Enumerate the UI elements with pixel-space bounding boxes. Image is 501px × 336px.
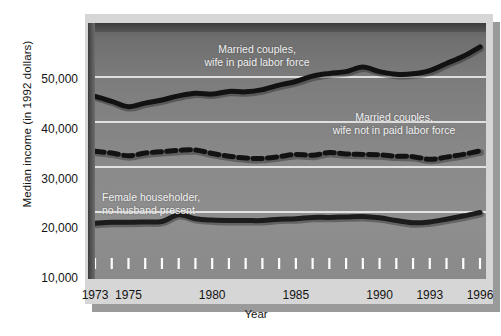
annot-female-householder: Female householder, no husband present	[102, 191, 262, 216]
plot-area: Married couples, wife in paid labor forc…	[88, 23, 486, 279]
y-tick-label: 30,000	[16, 172, 78, 186]
y-axis-tick-labels: 50,000 40,000 30,000 20,000 10,000	[12, 0, 78, 336]
y-tick-label: 20,000	[16, 221, 78, 235]
annot-married-wife-working: Married couples, wife in paid labor forc…	[182, 43, 332, 68]
x-tick-label: 1973	[82, 288, 109, 302]
annot-line: Married couples,	[310, 111, 478, 124]
y-tick-label: 50,000	[16, 72, 78, 86]
x-tick-label: 1975	[115, 288, 142, 302]
annot-line: wife not in paid labor force	[310, 124, 478, 137]
x-tick-label: 1996	[467, 288, 494, 302]
x-tick-label: 1990	[366, 288, 393, 302]
annot-line: wife in paid labor force	[182, 56, 332, 69]
chart-figure: Median income (in 1992 dollars) 50,000 4…	[0, 0, 501, 336]
annot-line: Married couples,	[182, 43, 332, 56]
annot-line: Female householder,	[102, 191, 262, 204]
annot-married-wife-not-working: Married couples, wife not in paid labor …	[310, 111, 478, 136]
y-tick-label: 10,000	[16, 271, 78, 285]
y-tick-label: 40,000	[16, 122, 78, 136]
annot-line: no husband present	[102, 204, 262, 217]
x-tick-label: 1985	[283, 288, 310, 302]
x-axis-title: Year	[244, 308, 267, 320]
x-tick-label: 1993	[416, 288, 443, 302]
x-tick-label: 1980	[199, 288, 226, 302]
